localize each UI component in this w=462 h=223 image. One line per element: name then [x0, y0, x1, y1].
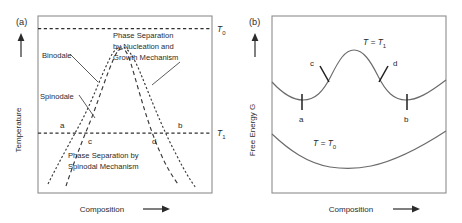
- point-label-a-panel-b: a: [299, 115, 304, 124]
- curve-label-t1: T = T1: [363, 37, 387, 49]
- nucleation-annotation-line-3: Growth Mechanism: [113, 53, 178, 62]
- x-axis-arrow-head-b: [412, 206, 420, 213]
- y-axis-label-a: Temperature: [14, 107, 23, 152]
- plot-frame-b: [272, 16, 446, 193]
- y-axis-arrow-head-b: [252, 33, 259, 41]
- point-label-d: d: [152, 137, 156, 146]
- point-label-c-panel-b: c: [310, 59, 314, 68]
- point-label-b: b: [178, 121, 183, 130]
- point-label-a: a: [60, 121, 65, 130]
- x-axis-arrow-head-a: [162, 206, 170, 213]
- x-axis-label-b: Composition: [329, 205, 373, 214]
- nucleation-leader-line: [152, 62, 180, 85]
- isotherm-t1-label: T1: [217, 128, 226, 140]
- panel-tag-a: (a): [16, 17, 27, 27]
- panel-tag-b: (b): [249, 17, 260, 27]
- binodal-leader-line: [70, 54, 98, 82]
- x-axis-label-a: Composition: [80, 205, 124, 214]
- isotherm-t0-label: T0: [217, 24, 226, 36]
- curve-label-t0: T = T0: [313, 138, 337, 150]
- spinodal-label: Spinodale: [40, 92, 74, 101]
- nucleation-annotation-line-2: by Nucleation and: [113, 42, 174, 51]
- point-label-c: c: [88, 137, 92, 146]
- point-label-d-panel-b: d: [393, 59, 397, 68]
- nucleation-annotation-line-1: Phase Separation: [113, 31, 173, 40]
- figure-root: Binodale Spinodale Phase Separation by N…: [0, 0, 462, 223]
- spinodal-annotation-line-2: Spinodal Mechanism: [68, 162, 139, 171]
- panel-phase-diagram: Binodale Spinodale Phase Separation by N…: [0, 0, 231, 223]
- panel-b-canvas: T = T1 T = T0 a c d b (b) Free Energy G …: [231, 0, 462, 223]
- panel-free-energy: T = T1 T = T0 a c d b (b) Free Energy G …: [231, 0, 462, 223]
- point-label-b-panel-b: b: [404, 115, 409, 124]
- spinodal-leader-line: [79, 95, 95, 118]
- marker-tick-c-panel: [320, 66, 329, 82]
- marker-tick-d-panel: [379, 66, 388, 82]
- free-energy-curve-t1: [272, 50, 446, 100]
- panel-a-canvas: Binodale Spinodale Phase Separation by N…: [0, 0, 231, 223]
- y-axis-arrow-head-a: [18, 33, 25, 41]
- binodal-label: Binodale: [42, 51, 72, 60]
- free-energy-curve-t0: [272, 131, 446, 168]
- y-axis-label-b: Free Energy G: [248, 104, 257, 156]
- spinodal-annotation-line-1: Phase Separation by: [68, 151, 139, 160]
